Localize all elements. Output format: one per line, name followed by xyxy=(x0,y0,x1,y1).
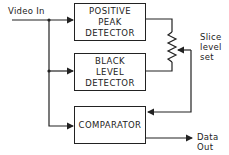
comparator-block: COMPARATOR xyxy=(74,106,146,144)
block-label-line: LEVEL xyxy=(85,67,134,78)
slice-level-set-label: Slice level set xyxy=(200,32,222,62)
pot-label-line: set xyxy=(200,52,222,62)
pot-label-line: level xyxy=(200,42,222,52)
positive-peak-detector-block: POSITIVEPEAKDETECTOR xyxy=(74,3,146,41)
block-label-line: POSITIVE xyxy=(85,6,134,17)
output-label-line: Out xyxy=(197,142,219,152)
block-label-line: COMPARATOR xyxy=(79,120,142,131)
block-label-line: PEAK xyxy=(85,17,134,28)
block-label-line: DETECTOR xyxy=(85,78,134,89)
pot-label-line: Slice xyxy=(200,32,222,42)
block-label-line: DETECTOR xyxy=(85,28,134,39)
data-out-label: Data Out xyxy=(197,132,219,152)
video-in-label: Video In xyxy=(8,6,45,16)
output-label-line: Data xyxy=(197,132,219,142)
black-level-detector-block: BLACKLEVELDETECTOR xyxy=(74,53,146,91)
block-label-line: BLACK xyxy=(85,56,134,67)
